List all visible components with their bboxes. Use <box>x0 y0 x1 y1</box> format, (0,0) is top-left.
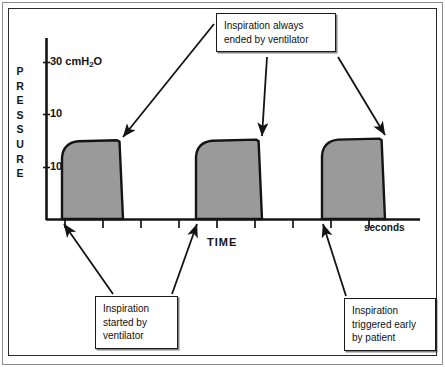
callout-line: ended by ventilator <box>224 33 328 47</box>
y-axis-title-letter: R <box>10 79 30 94</box>
callout-inspiration-triggered: Inspiration triggered early by patient <box>344 298 436 351</box>
y-tick-label-20: 10 <box>50 107 62 119</box>
callout-line: ventilator <box>103 329 170 343</box>
x-axis-title: TIME <box>207 236 237 248</box>
callout-line: started by <box>103 316 170 330</box>
callout-inspiration-started: Inspiration started by ventilator <box>95 296 178 349</box>
x-axis-unit-label: seconds <box>364 222 405 233</box>
arrow-left-to-breath2-start <box>172 224 197 294</box>
waveform-breath-1 <box>62 140 123 219</box>
waveform-breath-3 <box>322 139 385 219</box>
y-tick-label-30: 30 cmH2O <box>50 55 102 67</box>
callout-inspiration-ended: Inspiration always ended by ventilator <box>216 13 336 52</box>
y-axis-title: P R E S S U R E <box>10 64 30 181</box>
arrow-top-to-breath1 <box>123 24 214 137</box>
arrow-left-to-breath1-start <box>64 224 113 294</box>
arrow-top-to-breath3 <box>338 57 385 135</box>
callout-line: Inspiration always <box>224 19 328 33</box>
callout-line: by patient <box>352 331 428 345</box>
callout-line: triggered early <box>352 318 428 332</box>
y-axis-title-letter: R <box>10 152 30 167</box>
y-axis-title-letter: S <box>10 122 30 137</box>
y-axis-title-letter: U <box>10 137 30 152</box>
arrow-top-to-breath2 <box>262 57 267 136</box>
y-axis-title-letter: E <box>10 93 30 108</box>
ventilation-waveform-figure: P R E S S U R E 30 cmH2O 10 10 TIME seco… <box>0 0 445 367</box>
callout-line: Inspiration <box>352 304 428 318</box>
callout-line: Inspiration <box>103 302 170 316</box>
y-tick-label-10: 10 <box>50 160 62 172</box>
waveform-breath-2 <box>196 140 262 219</box>
y-axis-title-letter: E <box>10 166 30 181</box>
arrow-right-to-breath3-start <box>323 224 346 296</box>
y-axis-title-letter: P <box>10 64 30 79</box>
y-axis-title-letter: S <box>10 108 30 123</box>
